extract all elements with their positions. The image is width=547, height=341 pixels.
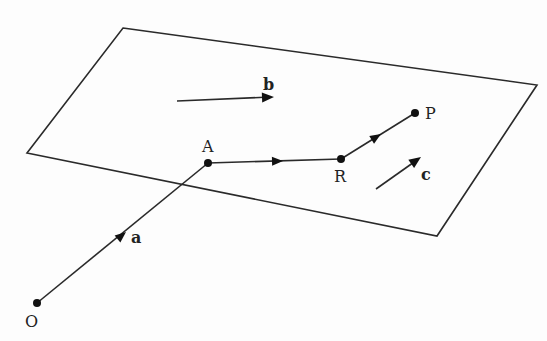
vector-a-label: a	[131, 228, 141, 247]
point-P-label: P	[425, 104, 436, 123]
vector-b-line	[177, 97, 270, 101]
point-O	[33, 299, 41, 307]
point-R	[337, 155, 345, 163]
vector-c-label: c	[421, 165, 431, 184]
point-P	[411, 109, 419, 117]
vector-RP-arrowhead	[369, 130, 383, 143]
plane-vector-diagram: a b c O A R P	[0, 0, 547, 341]
point-O-label: O	[25, 312, 38, 331]
vector-b-label: b	[263, 75, 274, 94]
plane	[27, 28, 537, 236]
vector-c-line	[376, 160, 417, 189]
point-R-label: R	[334, 167, 347, 186]
vector-a-line	[37, 163, 208, 303]
vector-AR-arrowhead	[272, 157, 283, 166]
point-A-label: A	[201, 137, 214, 156]
point-A	[204, 159, 212, 167]
vector-a-arrowhead	[115, 229, 129, 243]
